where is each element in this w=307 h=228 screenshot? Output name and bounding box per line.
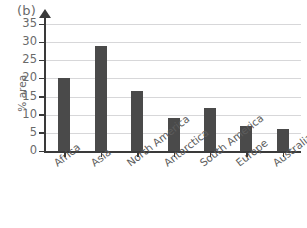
x-axis-tick-labels: AfricaAsiaNorth AmericaAntarcticaSouth A… bbox=[0, 0, 307, 228]
y-axis-tick-mark bbox=[39, 24, 45, 26]
y-axis-tick-mark bbox=[39, 114, 45, 116]
x-axis-tick-mark bbox=[174, 153, 176, 157]
x-axis-category-label: Africa bbox=[52, 142, 82, 169]
y-axis-tick-mark bbox=[39, 96, 45, 98]
x-axis-tick-mark bbox=[210, 153, 212, 157]
x-axis-category-label: North America bbox=[125, 113, 191, 168]
y-axis-tick-mark bbox=[39, 78, 45, 80]
x-axis-tick-mark bbox=[64, 153, 66, 157]
y-axis-tick-mark bbox=[39, 60, 45, 62]
x-axis-tick-mark bbox=[101, 153, 103, 157]
x-axis-category-label: Australia bbox=[271, 131, 307, 168]
y-axis-tick-mark bbox=[39, 151, 45, 153]
bar-chart-figure: (b) % area 05101520253035 AfricaAsiaNort… bbox=[0, 0, 307, 228]
y-axis-tick-mark bbox=[39, 42, 45, 44]
x-axis-tick-mark bbox=[283, 153, 285, 157]
x-axis-tick-mark bbox=[246, 153, 248, 157]
x-axis-category-label: Asia bbox=[89, 146, 113, 168]
y-axis-tick-mark bbox=[39, 132, 45, 134]
x-axis-category-label: South America bbox=[198, 112, 265, 168]
x-axis-category-label: Europe bbox=[234, 137, 270, 168]
x-axis-tick-mark bbox=[137, 153, 139, 157]
